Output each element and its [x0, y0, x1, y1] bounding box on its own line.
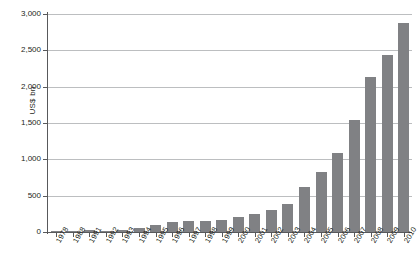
y-axis-tick-mark: [43, 123, 48, 124]
gridline: [48, 87, 412, 88]
plot-area: [48, 14, 412, 232]
y-axis-tick-labels: 05001,0001,5002,0002,5003,000: [0, 0, 41, 273]
y-axis-tick-label: 0: [0, 227, 41, 236]
y-axis-tick-mark: [43, 232, 48, 233]
y-axis-tick-mark: [43, 50, 48, 51]
bar-chart: US$ bn 05001,0001,5002,0002,5003,000 197…: [0, 0, 418, 273]
bar: [365, 77, 376, 232]
gridline: [48, 50, 412, 51]
bar: [398, 23, 409, 232]
y-axis-tick-label: 2,500: [0, 45, 41, 54]
y-axis-tick-mark: [43, 196, 48, 197]
gridline: [48, 14, 412, 15]
bar: [299, 187, 310, 232]
y-axis-tick-label: 1,500: [0, 118, 41, 127]
y-axis-tick-mark: [43, 87, 48, 88]
bar: [316, 172, 327, 232]
y-axis-tick-label: 1,000: [0, 154, 41, 163]
y-axis-tick-label: 2,000: [0, 82, 41, 91]
bar: [332, 153, 343, 232]
bar: [382, 55, 393, 232]
y-axis-tick-mark: [43, 159, 48, 160]
bar: [349, 120, 360, 232]
y-axis-tick-label: 3,000: [0, 9, 41, 18]
y-axis-tick-mark: [43, 14, 48, 15]
y-axis-tick-label: 500: [0, 191, 41, 200]
